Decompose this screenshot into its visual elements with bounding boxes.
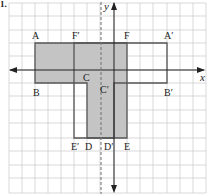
label-F: F (124, 30, 130, 41)
label-E: E (124, 141, 130, 152)
problem-number: 1. (0, 0, 7, 9)
label-F-prime: F′ (72, 30, 80, 41)
label-D-prime: D′ (104, 141, 113, 152)
y-axis-down-arrow-icon (111, 185, 117, 193)
y-axis-label: y (103, 0, 109, 12)
original-shape (35, 43, 127, 138)
label-E-prime: E′ (71, 141, 79, 152)
label-C: C (83, 72, 90, 83)
label-B-prime: B′ (164, 87, 173, 98)
label-C-prime: C′ (100, 84, 109, 95)
label-A: A (32, 30, 40, 41)
label-B: B (33, 87, 40, 98)
label-A-prime: A′ (164, 30, 173, 41)
reflection-diagram: 1. y x A F′ F A′ B B′ C C′ E′ D D′ E (0, 0, 209, 196)
x-axis-label: x (199, 71, 205, 83)
label-D: D (85, 141, 92, 152)
x-axis-left-arrow-icon (9, 67, 17, 73)
